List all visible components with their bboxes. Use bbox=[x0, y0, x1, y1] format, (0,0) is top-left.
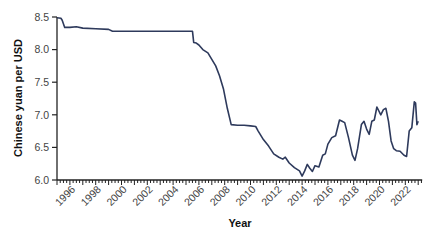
series-line bbox=[57, 18, 418, 176]
x-axis-title: Year bbox=[228, 217, 252, 229]
line-chart: 6.06.57.07.58.08.5 199619982000200220042… bbox=[0, 0, 436, 240]
y-axis: 6.06.57.07.58.08.5 bbox=[34, 11, 57, 186]
y-tick-label: 7.5 bbox=[34, 76, 49, 88]
x-tick-label: 2018 bbox=[336, 183, 361, 208]
x-tick-label: 2020 bbox=[362, 183, 387, 208]
x-tick-label: 1996 bbox=[52, 183, 77, 208]
y-tick-label: 6.5 bbox=[34, 141, 49, 153]
plot-area bbox=[57, 18, 418, 176]
x-tick-label: 2002 bbox=[130, 183, 155, 208]
x-tick-label: 2000 bbox=[104, 183, 129, 208]
y-tick-label: 7.0 bbox=[34, 109, 49, 121]
x-tick-label: 2004 bbox=[156, 183, 181, 208]
x-tick-label: 2008 bbox=[207, 183, 232, 208]
x-tick-label: 1998 bbox=[78, 183, 103, 208]
x-tick-label: 2022 bbox=[388, 183, 413, 208]
x-axis: 1996199820002002200420062008201020122014… bbox=[52, 180, 422, 208]
x-tick-label: 2010 bbox=[233, 183, 258, 208]
x-tick-label: 2012 bbox=[259, 183, 284, 208]
y-tick-label: 8.5 bbox=[34, 11, 49, 23]
y-tick-label: 8.0 bbox=[34, 43, 49, 55]
x-tick-label: 2016 bbox=[310, 183, 335, 208]
x-tick-label: 2014 bbox=[285, 183, 310, 208]
y-axis-title: Chinese yuan per USD bbox=[12, 39, 24, 157]
x-tick-label: 2006 bbox=[181, 183, 206, 208]
y-tick-label: 6.0 bbox=[34, 174, 49, 186]
